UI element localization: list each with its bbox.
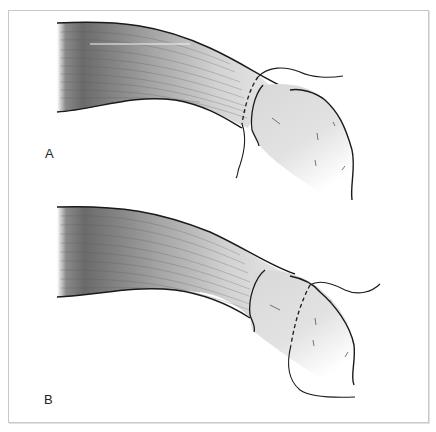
tendon-illustration <box>0 0 436 432</box>
tissue-a <box>252 84 352 198</box>
tissue-b <box>249 271 354 385</box>
panel-label-a: A <box>45 146 54 161</box>
panel-a-drawing <box>57 22 353 200</box>
panel-label-b: B <box>44 392 53 407</box>
panel-b-drawing <box>57 207 380 398</box>
